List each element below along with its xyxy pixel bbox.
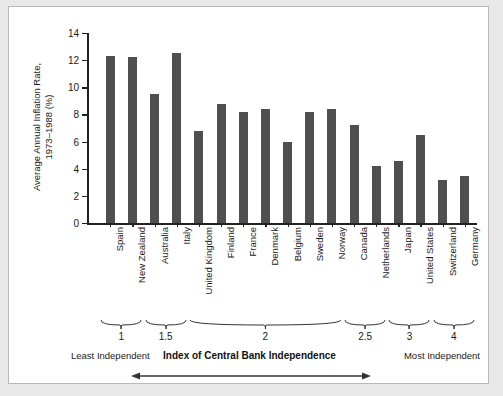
category-label: Finland (225, 227, 236, 258)
y-axis-tick-label: 6 (73, 136, 79, 147)
bar (283, 142, 292, 223)
bar-slot (299, 33, 321, 223)
bar-slot (99, 33, 121, 223)
bar (106, 56, 115, 223)
y-axis-tick-label: 8 (73, 109, 79, 120)
bar-slot (432, 33, 454, 223)
bar (460, 176, 469, 224)
bar-slot (210, 33, 232, 223)
category-label: Italy (181, 227, 192, 244)
bar (261, 109, 270, 223)
category-label: Norway (336, 227, 347, 259)
bar-slot (321, 33, 343, 223)
index-bracket (189, 319, 342, 330)
bar-slot (121, 33, 143, 223)
bar (239, 112, 248, 223)
bar (150, 94, 159, 223)
index-bracket (388, 319, 430, 330)
bar-slot (166, 33, 188, 223)
double-arrow-icon (131, 367, 371, 377)
bar (305, 112, 314, 223)
category-label: Belgium (292, 227, 303, 261)
plot-area: 02468101214 (87, 33, 477, 223)
y-axis-tick (82, 223, 87, 224)
category-label: Netherlands (380, 227, 391, 278)
bar-slot (409, 33, 431, 223)
category-label: Denmark (269, 227, 280, 266)
index-bracket-label: 1.5 (159, 331, 173, 342)
index-bracket (145, 319, 187, 330)
bar-slot (232, 33, 254, 223)
category-label: Switzerland (447, 227, 458, 276)
index-bracket-label: 4 (451, 331, 457, 342)
x-axis-line (87, 223, 477, 225)
y-axis-tick-label: 10 (68, 82, 79, 93)
bar (194, 131, 203, 223)
category-label: Germany (469, 227, 480, 266)
index-bracket-group: 11.522.534 (87, 319, 477, 337)
bar-slot (144, 33, 166, 223)
index-bracket-label: 2 (263, 331, 269, 342)
bar (394, 161, 403, 223)
bar-slot (188, 33, 210, 223)
index-bracket-label: 1 (119, 331, 125, 342)
bar (438, 180, 447, 223)
category-label: United States (424, 227, 435, 284)
chart-figure: Average Annual Inflation Rate, 1973–1988… (8, 6, 489, 384)
index-bracket (433, 319, 475, 330)
category-label: New Zealand (136, 227, 147, 283)
category-label: Japan (402, 227, 413, 253)
bar-group (87, 33, 477, 223)
y-axis-tick-label: 2 (73, 190, 79, 201)
least-independent-label: Least Independent (71, 350, 150, 363)
category-label: Spain (114, 227, 125, 251)
y-axis-tick-label: 12 (68, 55, 79, 66)
category-label: Sweden (314, 227, 325, 261)
category-label: Australia (159, 227, 170, 264)
index-bracket (344, 319, 386, 330)
bar (217, 104, 226, 223)
bar-slot (387, 33, 409, 223)
x-axis-footer: Index of Central Bank Independence Least… (9, 350, 490, 384)
bar (350, 125, 359, 223)
y-axis-title: Average Annual Inflation Rate, 1973–1988… (31, 47, 55, 207)
most-independent-label: Most Independent (404, 350, 480, 363)
bar (327, 109, 336, 223)
category-label: Canada (358, 227, 369, 260)
category-label: United Kingdom (203, 227, 214, 295)
y-axis-tick-label: 14 (68, 28, 79, 39)
index-bracket-label: 2.5 (358, 331, 372, 342)
bar (416, 135, 425, 223)
bar-slot (454, 33, 476, 223)
bar-slot (254, 33, 276, 223)
category-label: France (247, 227, 258, 257)
bar-slot (343, 33, 365, 223)
index-bracket-label: 3 (407, 331, 413, 342)
bar (372, 166, 381, 223)
category-label-group: SpainNew ZealandAustraliaItalyUnited Kin… (87, 227, 477, 313)
bar (128, 57, 137, 223)
index-bracket (100, 319, 142, 330)
y-axis-tick-label: 4 (73, 163, 79, 174)
bar-slot (365, 33, 387, 223)
bar-slot (276, 33, 298, 223)
bar (172, 53, 181, 223)
y-axis-tick-label: 0 (73, 218, 79, 229)
